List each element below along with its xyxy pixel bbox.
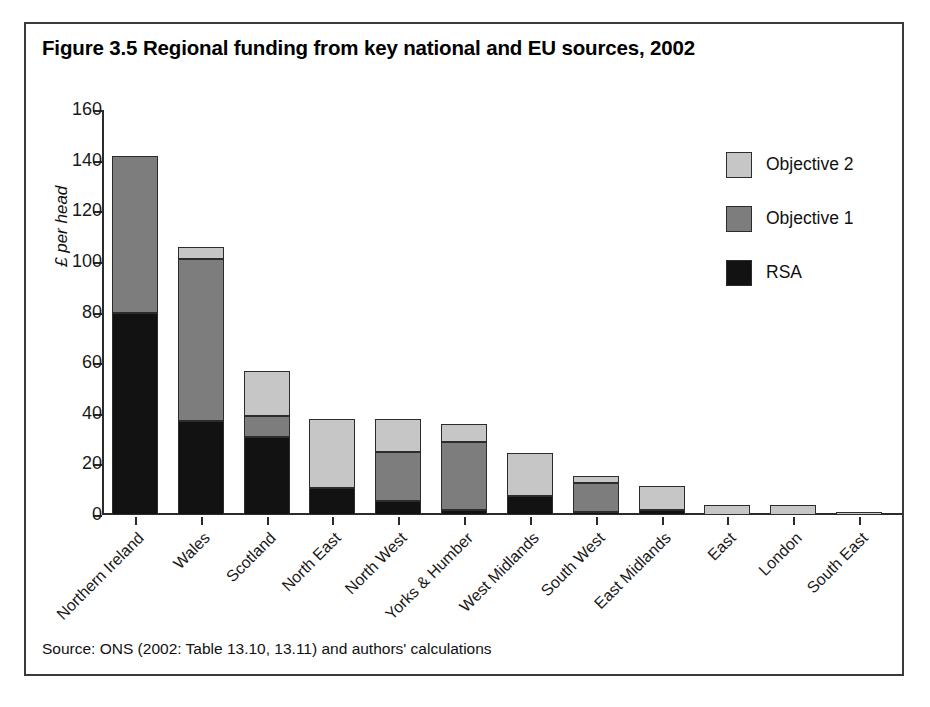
bar-group[interactable]	[375, 110, 421, 515]
bar-segment-objective-2[interactable]	[441, 424, 487, 442]
x-tick-mark	[596, 517, 598, 525]
x-axis-label: Wales	[88, 529, 214, 655]
y-axis-title: £ per head	[52, 186, 72, 267]
bar-segment-objective-1[interactable]	[441, 442, 487, 510]
x-tick-mark	[332, 517, 334, 525]
bar-segment-objective-2[interactable]	[178, 247, 224, 260]
bar-segment-objective-2[interactable]	[375, 419, 421, 452]
x-axis-label: North East	[219, 529, 345, 655]
y-tick-label: 120	[72, 200, 102, 221]
x-tick-mark	[464, 517, 466, 525]
x-axis-label: East Midlands	[548, 529, 674, 655]
y-tick-label: 40	[82, 403, 102, 424]
bar-group[interactable]	[639, 110, 685, 515]
bar-group[interactable]	[441, 110, 487, 515]
bar-segment-objective-2[interactable]	[309, 419, 355, 489]
x-tick-mark	[859, 517, 861, 525]
x-tick-mark	[793, 517, 795, 525]
bar-segment-objective-2[interactable]	[770, 505, 816, 515]
y-tick-label: 20	[82, 453, 102, 474]
figure-title: Figure 3.5 Regional funding from key nat…	[42, 36, 695, 60]
bar-segment-rsa[interactable]	[639, 510, 685, 515]
bar-segment-objective-1[interactable]	[573, 483, 619, 512]
bar-segment-rsa[interactable]	[507, 496, 553, 515]
y-tick-label: 60	[82, 352, 102, 373]
bar-segment-objective-1[interactable]	[375, 452, 421, 501]
bar-group[interactable]	[112, 110, 158, 515]
bar-group[interactable]	[244, 110, 290, 515]
bar-segment-objective-1[interactable]	[178, 259, 224, 421]
bar-group[interactable]	[507, 110, 553, 515]
x-axis-label: North West	[285, 529, 411, 655]
bar-segment-objective-2[interactable]	[573, 476, 619, 484]
x-axis-label: Scotland	[153, 529, 279, 655]
bar-segment-objective-1[interactable]	[244, 416, 290, 436]
bar-segment-objective-2[interactable]	[704, 505, 750, 515]
legend-swatch-objective-1	[726, 206, 752, 232]
bar-group[interactable]	[309, 110, 355, 515]
x-axis-label: Yorks & Humber	[351, 529, 477, 655]
source-note: Source: ONS (2002: Table 13.10, 13.11) a…	[42, 640, 492, 658]
x-tick-mark	[398, 517, 400, 525]
y-tick-label: 0	[92, 504, 102, 525]
x-tick-mark	[267, 517, 269, 525]
bar-segment-rsa[interactable]	[573, 512, 619, 515]
x-axis-label: East	[614, 529, 740, 655]
bar-segment-rsa[interactable]	[441, 510, 487, 515]
x-axis-label: South East	[746, 529, 872, 655]
bar-segment-objective-2[interactable]	[639, 486, 685, 510]
legend-label: Objective 2	[766, 154, 854, 175]
x-axis-label: London	[680, 529, 806, 655]
bar-group[interactable]	[178, 110, 224, 515]
y-tick-label: 160	[72, 99, 102, 120]
legend-label: RSA	[766, 262, 802, 283]
x-tick-mark	[201, 517, 203, 525]
bar-segment-rsa[interactable]	[178, 421, 224, 515]
bar-group[interactable]	[573, 110, 619, 515]
x-axis-label: South West	[483, 529, 609, 655]
y-tick-label: 100	[72, 251, 102, 272]
legend-swatch-rsa	[726, 260, 752, 286]
bar-segment-rsa[interactable]	[375, 501, 421, 515]
figure-container: Figure 3.5 Regional funding from key nat…	[24, 22, 904, 676]
bar-segment-objective-2[interactable]	[244, 371, 290, 417]
x-tick-mark	[727, 517, 729, 525]
legend-label: Objective 1	[766, 208, 854, 229]
x-axis-label: West Midlands	[417, 529, 543, 655]
bar-segment-objective-1[interactable]	[112, 156, 158, 313]
x-axis-label: Northern Ireland	[22, 529, 148, 655]
y-tick-label: 80	[82, 302, 102, 323]
legend-swatch-objective-2	[726, 152, 752, 178]
x-tick-mark	[530, 517, 532, 525]
bar-segment-objective-2[interactable]	[836, 512, 882, 515]
bar-segment-rsa[interactable]	[309, 488, 355, 515]
bar-segment-rsa[interactable]	[112, 313, 158, 516]
x-tick-mark	[135, 517, 137, 525]
x-tick-mark	[662, 517, 664, 525]
y-tick-label: 140	[72, 150, 102, 171]
bar-segment-objective-2[interactable]	[507, 453, 553, 496]
bar-segment-rsa[interactable]	[244, 437, 290, 515]
